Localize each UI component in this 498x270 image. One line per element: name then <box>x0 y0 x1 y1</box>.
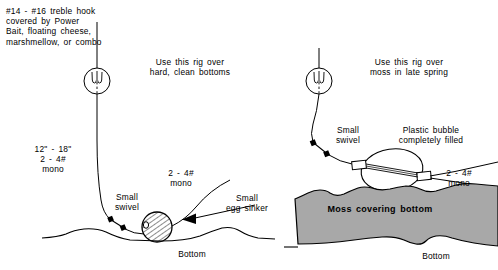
arrow-pointer-icon <box>182 214 196 225</box>
left-usage-label: Use this rig over hard, clean bottoms <box>138 57 242 77</box>
swivel-left-label: Small swivel <box>104 192 150 212</box>
treble-hook-bait-ball-icon-right <box>306 68 332 94</box>
fishing-rig-diagram: #14 - #16 treble hook covered by Power B… <box>0 0 498 270</box>
right-usage-label: Use this rig over moss in late spring <box>355 57 463 77</box>
left-lower-line <box>125 229 144 234</box>
right-leader-line <box>312 94 320 142</box>
bait-note-label: #14 - #16 treble hook covered by Power B… <box>6 6 102 47</box>
swivel-icon-left <box>107 216 126 231</box>
right-upper-line <box>329 155 352 164</box>
egg-sinker-label: Small egg sinker <box>211 193 283 213</box>
plastic-bubble-label: Plastic bubble completely filled <box>380 125 482 145</box>
swivel-right-label: Small swivel <box>325 125 371 145</box>
moss-bottom-label: Moss covering bottom <box>310 204 450 214</box>
moss-region <box>295 184 498 246</box>
leader-left-label: 12" - 18" 2 - 4# mono <box>22 144 84 175</box>
bottom-left-label: Bottom <box>167 249 217 259</box>
treble-hook-bait-ball-icon-left <box>84 68 110 94</box>
mono-right-label: 2 - 4# mono <box>434 168 484 188</box>
mono-left-label: 2 - 4# mono <box>155 168 207 188</box>
bottom-right-label: Bottom <box>411 251 461 261</box>
egg-sinker-icon <box>142 212 172 242</box>
